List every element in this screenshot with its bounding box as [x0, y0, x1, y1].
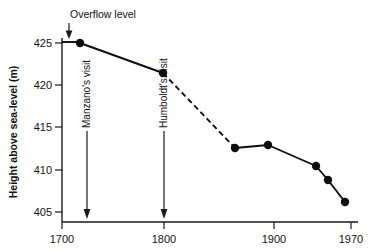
series-segment-solid-late [235, 145, 345, 202]
x-tick-label-1700: 1700 [50, 233, 74, 245]
chart-svg: 425 420 415 410 405 Height above sea-lev… [0, 0, 375, 251]
annotation-manzano-visit-label: Manzano's visit [81, 60, 92, 128]
y-axis-title: Height above sea-level (m) [7, 66, 19, 198]
x-tick-label-1970: 1970 [339, 233, 363, 245]
data-point [312, 162, 320, 170]
x-axis-ticks [62, 222, 351, 229]
y-tick-label-410: 410 [34, 164, 52, 176]
annotation-overflow-level-label: Overflow level [70, 8, 136, 20]
y-axis-tick-labels: 425 420 415 410 405 [34, 37, 52, 218]
y-tick-label-425: 425 [34, 37, 52, 49]
annotation-overflow-level-arrow-head [66, 31, 73, 40]
series-markers [76, 39, 349, 206]
chart-figure: 425 420 415 410 405 Height above sea-lev… [0, 0, 375, 251]
y-tick-label-415: 415 [34, 121, 52, 133]
x-tick-label-1900: 1900 [262, 233, 286, 245]
data-point [341, 198, 349, 206]
annotation-overflow-level: Overflow level [66, 8, 136, 39]
y-axis-ticks [55, 43, 62, 212]
x-tick-label-1800: 1800 [152, 233, 176, 245]
annotation-humboldt-visit: Humboldt's visit [158, 58, 169, 219]
series-segment-solid-early [80, 43, 163, 73]
y-tick-label-405: 405 [34, 206, 52, 218]
data-point [231, 144, 239, 152]
x-axis-tick-labels: 1700 1800 1900 1970 [50, 233, 363, 245]
y-tick-label-420: 420 [34, 79, 52, 91]
data-point [324, 176, 332, 184]
series-segment-dashed [163, 73, 235, 148]
data-point [76, 39, 84, 47]
annotation-humboldt-visit-label: Humboldt's visit [158, 58, 169, 128]
annotation-manzano-visit: Manzano's visit [81, 60, 92, 219]
data-point [264, 141, 272, 149]
annotation-humboldt-visit-arrow-head [161, 209, 168, 219]
annotation-manzano-visit-arrow-head [84, 209, 91, 219]
